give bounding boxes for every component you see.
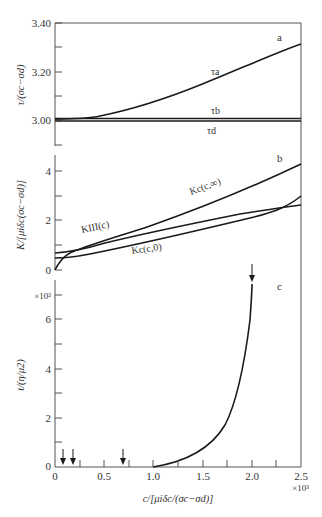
arrow-down-2	[70, 449, 76, 465]
label-tau-d: τd	[207, 125, 216, 136]
x-multiplier: ×10³	[292, 483, 309, 493]
chart-figure: 3.40 3.20 3.00 τ/(σc−σd) a τa τb τd 4 2 …	[0, 0, 322, 517]
tick-c-2: 2	[46, 412, 52, 424]
tick-a-320: 3.20	[32, 66, 52, 78]
y-axis-title-c: t/(η/μ2)	[15, 359, 27, 391]
panel-b: 4 2 0 K/[μiδc(σc−σd)] b Kc(c,∞) KIII(c) …	[15, 152, 301, 276]
tick-x-05: 0.5	[97, 470, 111, 482]
tick-b-2: 2	[46, 214, 52, 226]
arrow-down-top	[249, 264, 255, 282]
tick-b-4: 4	[46, 165, 52, 177]
panel-c-y-ticks	[55, 295, 62, 442]
tick-a-300: 3.00	[32, 114, 52, 126]
tick-a-340: 3.40	[32, 17, 52, 29]
label-tau-b: τb	[211, 105, 220, 116]
tick-c-6: 6	[46, 313, 52, 325]
tick-c-4: 4	[46, 363, 52, 375]
panel-b-tag: b	[277, 152, 283, 164]
label-k-iii: KIII(c)	[80, 218, 110, 236]
tick-c-0: 0	[46, 460, 52, 472]
y-axis-title-b: K/[μiδc(σc−σd)]	[15, 180, 27, 251]
panel-a-y-ticks	[55, 23, 62, 145]
x-ticks	[80, 460, 276, 467]
label-k-zero: Kc(c,0)	[131, 241, 163, 257]
tick-x-25: 2.5	[294, 470, 308, 482]
panel-a-tag: a	[277, 31, 282, 43]
y-multiplier-c: ×10²	[34, 291, 51, 301]
panel-c-tag: c	[277, 280, 282, 292]
arrow-down-3	[120, 449, 126, 465]
label-tau-a: τa	[211, 66, 220, 77]
panel-b-y-ticks	[55, 171, 62, 270]
curve-tau-a	[55, 44, 301, 119]
panel-a: 3.40 3.20 3.00 τ/(σc−σd) a τa τb τd	[15, 17, 301, 145]
label-k-inf: Kc(c,∞)	[188, 175, 223, 197]
tick-b-0: 0	[46, 264, 52, 276]
tick-x-0: 0	[52, 470, 58, 482]
tick-x-20: 2.0	[245, 470, 259, 482]
x-axis-title: c/[μiδc/(σc−σd)]	[143, 493, 214, 505]
tick-x-10: 1.0	[146, 470, 160, 482]
arrow-down-1	[60, 449, 66, 465]
curve-t	[153, 284, 252, 467]
tick-x-15: 1.5	[196, 470, 210, 482]
y-axis-title-a: τ/(σc−σd)	[15, 64, 27, 106]
